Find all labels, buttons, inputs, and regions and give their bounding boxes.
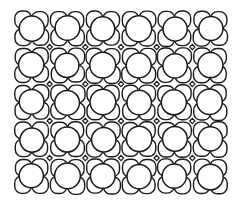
tiled-circle-pattern (0, 0, 240, 209)
